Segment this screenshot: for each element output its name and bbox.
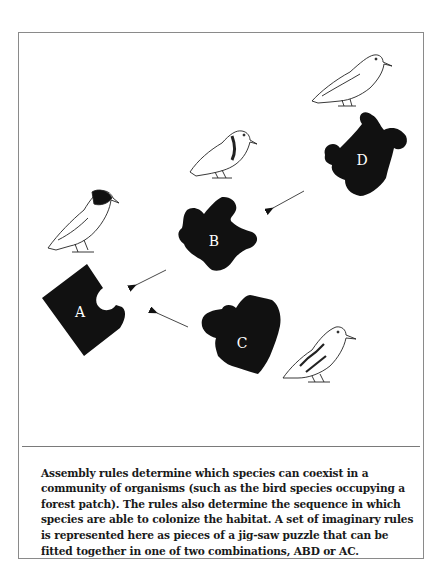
svg-text:A: A — [74, 304, 86, 320]
bird-b-icon — [190, 131, 257, 178]
arrow-d-to-b — [273, 191, 304, 208]
bird-a-icon — [48, 190, 119, 252]
svg-text:B: B — [209, 233, 219, 249]
puzzle-piece-d: D — [325, 112, 407, 196]
figure-caption: Assembly rules determine which species c… — [41, 466, 416, 560]
bird-d-icon — [312, 55, 392, 106]
puzzle-piece-b: B — [178, 197, 257, 271]
puzzle-piece-a: A — [42, 264, 125, 356]
puzzle-piece-c: C — [202, 295, 281, 374]
caption-divider — [22, 446, 420, 447]
svg-text:D: D — [356, 152, 367, 168]
bird-c-icon — [283, 327, 356, 382]
assembly-rules-diagram: D B A C — [0, 0, 445, 440]
svg-text:C: C — [237, 335, 248, 351]
arrow-c-to-a — [157, 313, 188, 327]
arrow-b-to-a — [136, 270, 166, 285]
